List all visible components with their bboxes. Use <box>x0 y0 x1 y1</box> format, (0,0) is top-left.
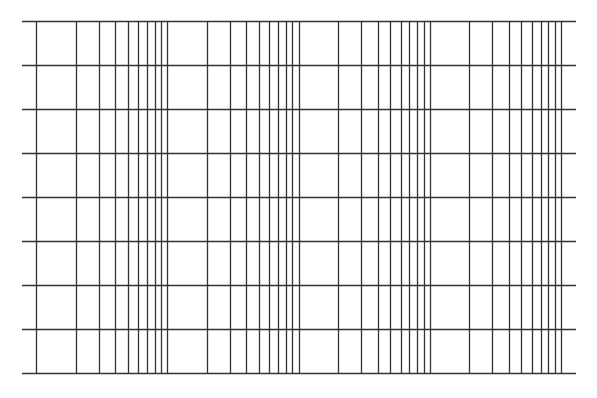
semilog-graph-paper <box>0 0 597 398</box>
grid-canvas <box>0 0 597 398</box>
